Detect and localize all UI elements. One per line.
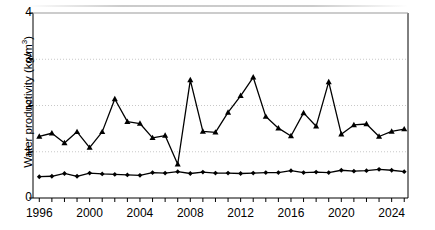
data-point-2002 xyxy=(112,96,118,101)
data-point-2013 xyxy=(250,74,256,79)
plot-area xyxy=(0,0,435,230)
data-point-2019 xyxy=(326,170,331,175)
series-line xyxy=(39,169,404,176)
data-point-2024 xyxy=(389,168,394,173)
data-point-2007 xyxy=(175,161,181,166)
series-upper-series xyxy=(36,74,407,166)
data-point-2018 xyxy=(314,170,319,175)
data-point-2016 xyxy=(288,133,294,138)
gridlines xyxy=(33,59,408,152)
data-point-1999 xyxy=(75,174,80,179)
x-tick-label-2020: 2020 xyxy=(321,206,361,220)
x-tick-label-2012: 2012 xyxy=(221,206,261,220)
x-tick-label-2008: 2008 xyxy=(170,206,210,220)
data-point-2001 xyxy=(100,172,105,177)
series-lower-series xyxy=(37,167,407,179)
data-point-2008 xyxy=(187,77,193,82)
x-axis-ticks xyxy=(39,198,404,202)
data-point-2020 xyxy=(339,168,344,173)
series-line xyxy=(39,77,404,164)
data-point-2017 xyxy=(301,110,307,115)
data-point-2012 xyxy=(238,171,243,176)
data-point-2003 xyxy=(124,118,130,123)
data-point-2009 xyxy=(200,170,205,175)
x-tick-label-2004: 2004 xyxy=(120,206,160,220)
data-series-group xyxy=(36,74,407,179)
data-point-2022 xyxy=(364,168,369,173)
data-point-2001 xyxy=(99,129,105,134)
data-point-2000 xyxy=(87,171,92,176)
data-point-2007 xyxy=(175,169,180,174)
data-point-2014 xyxy=(263,113,269,118)
data-point-2020 xyxy=(338,131,344,136)
x-tick-label-2000: 2000 xyxy=(70,206,110,220)
data-point-2008 xyxy=(188,171,193,176)
data-point-2013 xyxy=(251,171,256,176)
data-point-1999 xyxy=(74,129,80,134)
data-point-2006 xyxy=(163,171,168,176)
data-point-2025 xyxy=(402,169,407,174)
data-point-2014 xyxy=(263,170,268,175)
data-point-2005 xyxy=(150,170,155,175)
data-point-2025 xyxy=(401,126,407,131)
data-point-2016 xyxy=(289,168,294,173)
x-tick-label-2016: 2016 xyxy=(271,206,311,220)
data-point-2019 xyxy=(326,79,332,84)
water-productivity-chart: Water productivity (kg/m3) 01234 1996200… xyxy=(0,0,435,230)
data-point-2006 xyxy=(162,132,168,137)
data-point-2017 xyxy=(301,170,306,175)
data-point-1996 xyxy=(37,174,42,179)
data-point-1997 xyxy=(49,174,54,179)
data-point-1998 xyxy=(62,171,67,176)
x-tick-label-2024: 2024 xyxy=(372,206,412,220)
data-point-2023 xyxy=(377,167,382,172)
data-point-2010 xyxy=(213,171,218,176)
data-point-2002 xyxy=(112,172,117,177)
data-point-2011 xyxy=(226,171,231,176)
y-axis-ticks xyxy=(29,13,33,198)
data-point-2015 xyxy=(276,170,281,175)
data-point-2004 xyxy=(138,173,143,178)
data-point-2021 xyxy=(351,169,356,174)
x-tick-label-1996: 1996 xyxy=(19,206,59,220)
data-point-2003 xyxy=(125,172,130,177)
data-point-1997 xyxy=(49,130,55,135)
